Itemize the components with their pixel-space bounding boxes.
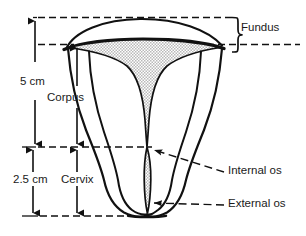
cervix-base-line [128,216,166,217]
label-cervix: Cervix [61,174,94,186]
uterus-outline-group [64,19,224,217]
label-cervix-length: 2.5 cm [13,174,48,186]
cervical-canal [144,147,151,214]
label-fundus: Fundus [241,22,279,34]
label-corpus-length: 5 cm [20,76,45,88]
label-internal-os: Internal os [228,165,282,177]
label-external-os: External os [228,198,286,210]
uterus-anatomy-diagram: Fundus 5 cm Corpus 2.5 cm Cervix Interna… [0,0,306,236]
leader-lines [154,150,224,205]
label-corpus: Corpus [47,92,84,104]
endometrial-cavity [68,40,220,147]
